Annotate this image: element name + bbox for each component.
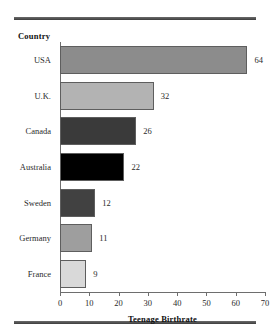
bar-france[interactable] <box>60 260 86 288</box>
x-tick-mark <box>89 292 90 296</box>
x-axis-line <box>60 292 265 293</box>
x-tick-mark <box>119 292 120 296</box>
bar-row: Australia22 <box>60 153 265 181</box>
bar-value-label: 64 <box>254 55 263 65</box>
bar-row: Sweden12 <box>60 189 265 217</box>
bar-row: Germany11 <box>60 224 265 252</box>
x-tick-mark <box>148 292 149 296</box>
x-tick-mark <box>206 292 207 296</box>
bar-canada[interactable] <box>60 117 136 145</box>
bar-sweden[interactable] <box>60 189 95 217</box>
category-label-germany: Germany <box>19 233 51 243</box>
x-tick-label: 0 <box>58 298 62 308</box>
bar-uk[interactable] <box>60 82 154 110</box>
bar-row: Canada26 <box>60 117 265 145</box>
x-tick-label: 50 <box>202 298 211 308</box>
bar-usa[interactable] <box>60 46 247 74</box>
bar-value-label: 12 <box>102 198 111 208</box>
x-tick-label: 60 <box>231 298 240 308</box>
bar-value-label: 11 <box>99 233 107 243</box>
x-tick-label: 30 <box>144 298 153 308</box>
bar-value-label: 26 <box>143 126 152 136</box>
x-tick-label: 70 <box>261 298 270 308</box>
bar-germany[interactable] <box>60 224 92 252</box>
category-axis-title: Country <box>18 31 50 41</box>
bar-row: France9 <box>60 260 265 288</box>
x-tick-label: 20 <box>114 298 123 308</box>
plot-area: USA64U.K.32Canada26Australia22Sweden12Ge… <box>60 42 265 292</box>
bar-row: USA64 <box>60 46 265 74</box>
bar-value-label: 22 <box>131 162 140 172</box>
top-divider-rule <box>14 17 256 20</box>
x-axis-title: Teenage Birthrate <box>60 314 265 324</box>
bar-value-label: 32 <box>161 91 170 101</box>
x-tick-mark <box>177 292 178 296</box>
x-tick-mark <box>265 292 266 296</box>
category-label-canada: Canada <box>26 126 52 136</box>
category-label-france: France <box>28 269 51 279</box>
category-label-sweden: Sweden <box>24 198 51 208</box>
x-tick-mark <box>60 292 61 296</box>
category-label-australia: Australia <box>20 162 51 172</box>
bar-value-label: 9 <box>93 269 97 279</box>
category-label-usa: USA <box>34 55 51 65</box>
x-tick-mark <box>236 292 237 296</box>
chart-page: Country USA64U.K.32Canada26Australia22Sw… <box>0 0 270 335</box>
x-tick-label: 10 <box>85 298 94 308</box>
bar-row: U.K.32 <box>60 82 265 110</box>
x-tick-label: 40 <box>173 298 182 308</box>
category-label-uk: U.K. <box>34 91 51 101</box>
bar-australia[interactable] <box>60 153 124 181</box>
